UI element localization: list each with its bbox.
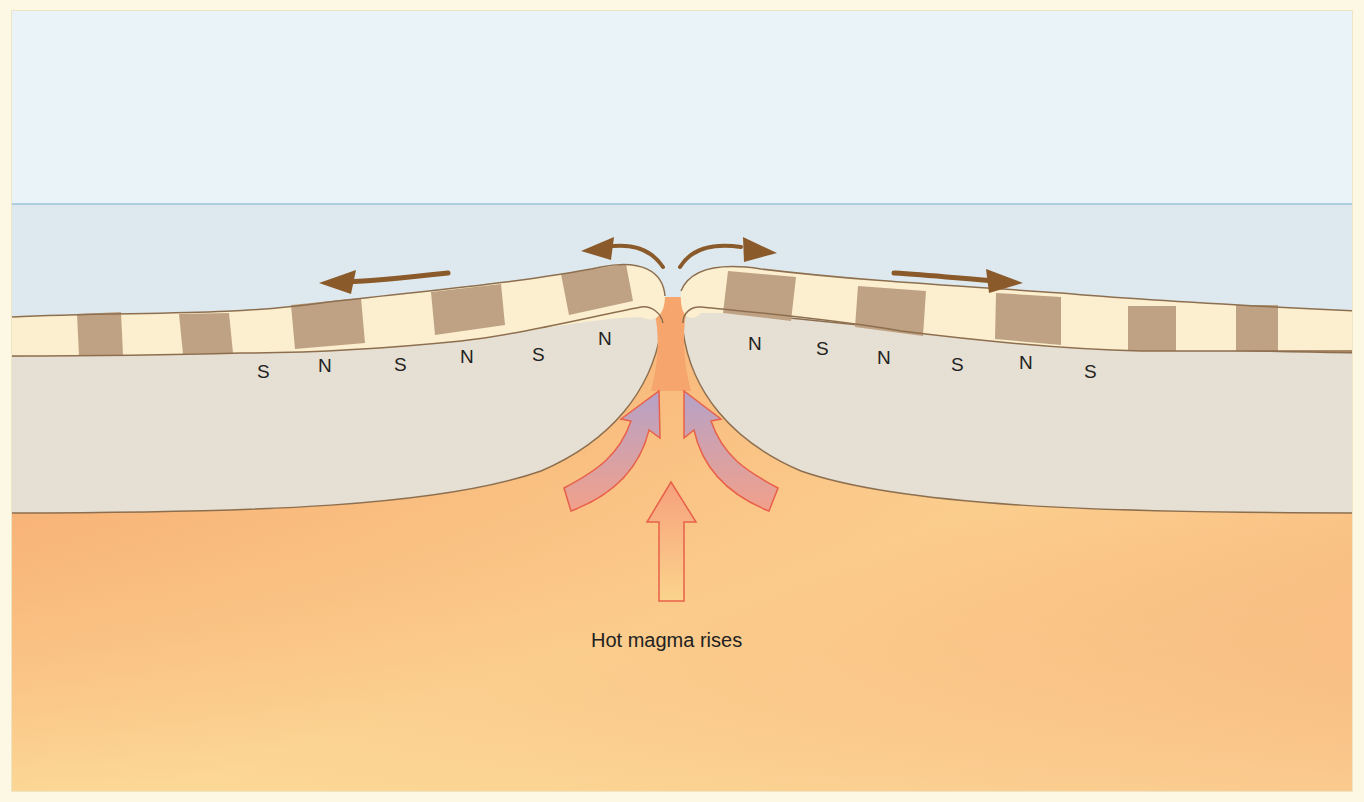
- polarity-label: N: [877, 347, 891, 368]
- polarity-label: N: [748, 333, 762, 354]
- seafloor-spreading-diagram: S N S N S N N S N S N S Hot magma rises: [11, 10, 1353, 792]
- sky: [11, 10, 1353, 204]
- polarity-label: S: [257, 361, 270, 382]
- polarity-label: S: [394, 354, 407, 375]
- polarity-label: S: [532, 344, 545, 365]
- diagram-frame: S N S N S N N S N S N S Hot magma rises: [11, 10, 1353, 792]
- polarity-label: N: [318, 355, 332, 376]
- polarity-label: N: [1019, 352, 1033, 373]
- polarity-label: N: [460, 346, 474, 367]
- polarity-label: S: [816, 338, 829, 359]
- polarity-label: S: [951, 354, 964, 375]
- polarity-label: S: [1084, 361, 1097, 382]
- magma-caption: Hot magma rises: [591, 629, 742, 651]
- polarity-label: N: [598, 328, 612, 349]
